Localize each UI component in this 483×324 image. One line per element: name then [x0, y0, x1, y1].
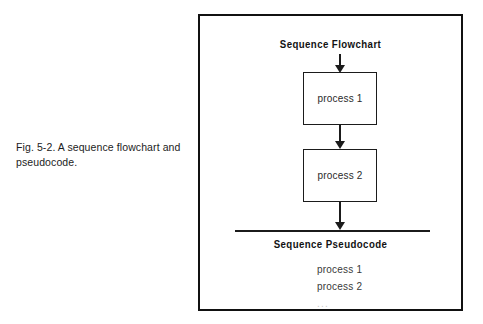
entry-arrow-icon: [339, 54, 341, 66]
figure-caption: Fig. 5-2. A sequence flowchart and pseud…: [16, 140, 186, 170]
process-node-1-label: process 1: [317, 93, 362, 104]
pseudocode-title: Sequence Pseudocode: [210, 238, 450, 250]
flowchart-title: Sequence Flowchart: [210, 38, 450, 50]
between-processes-arrow-icon: [339, 125, 341, 142]
process-node-1: process 1: [303, 72, 377, 125]
pseudocode-list: process 1 process 2 ...: [317, 261, 362, 312]
pseudocode-statement-2: process 2: [317, 278, 362, 295]
pseudocode-statement-ellipsis: ...: [317, 295, 362, 312]
process-node-2-label: process 2: [317, 170, 362, 181]
figure-caption-line-1: Fig. 5-2. A sequence flowchart and: [16, 140, 186, 155]
process-node-2: process 2: [303, 149, 377, 202]
pseudocode-statement-1: process 1: [317, 261, 362, 278]
section-divider: [235, 230, 430, 232]
exit-arrow-icon: [339, 202, 341, 223]
figure-panel: Sequence Flowchart process 1 process 2 S…: [198, 14, 463, 311]
figure-caption-line-2: pseudocode.: [16, 155, 186, 170]
